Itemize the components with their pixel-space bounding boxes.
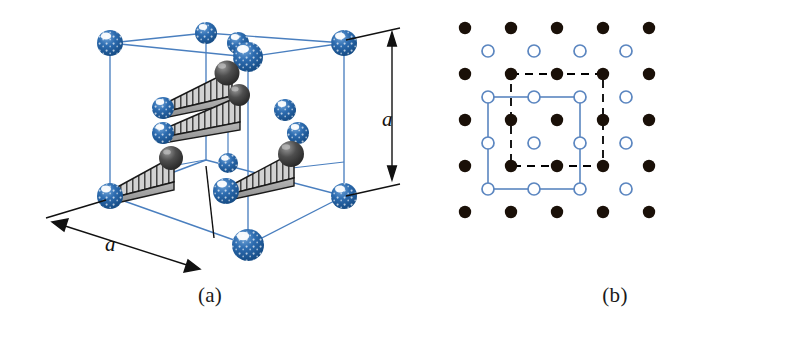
open-circle: [620, 45, 632, 57]
atom-corner-back-bottom-right: [331, 183, 357, 209]
filled-circle: [551, 114, 563, 126]
filled-circle: [505, 68, 517, 80]
filled-circle: [597, 22, 609, 34]
filled-circle: [459, 22, 471, 34]
filled-circle: [551, 68, 563, 80]
filled-circle: [505, 22, 517, 34]
atom-interior-center: [218, 153, 238, 173]
open-circle: [574, 137, 586, 149]
open-circle: [574, 183, 586, 195]
dim-leader-left: [46, 200, 106, 218]
dimension-label-horizontal: a: [105, 232, 116, 257]
panel-b-caption: (b): [420, 283, 810, 308]
atom-bottom-front-mid: [213, 178, 239, 204]
open-circle: [620, 91, 632, 103]
open-circle: [620, 137, 632, 149]
open-circle: [528, 137, 540, 149]
atom-corner-front-top-left: [97, 30, 123, 56]
filled-circle: [643, 114, 655, 126]
dim-shaft-horizontal: [62, 225, 190, 266]
filled-circle: [505, 114, 517, 126]
open-circle: [574, 91, 586, 103]
atom-corner-front-bottom-left: [97, 183, 123, 209]
cube-edge-top-left-depth: [110, 33, 206, 43]
dim-arrowhead-right: [184, 260, 200, 272]
filled-circle: [459, 114, 471, 126]
open-circle: [528, 183, 540, 195]
dimension-label-vertical: a: [382, 107, 393, 132]
dim-arrowhead-down: [388, 166, 397, 180]
atom-corner-back-top-left: [195, 22, 217, 44]
filled-circle: [597, 160, 609, 172]
filled-circle: [551, 206, 563, 218]
cube-edge-bottom-right-depth: [248, 196, 344, 245]
filled-circle: [505, 160, 517, 172]
atom-interior-right-upper: [274, 99, 296, 121]
dim-arrowhead-left: [52, 219, 68, 231]
open-circle: [482, 183, 494, 195]
filled-circle: [597, 206, 609, 218]
atom-interior-right-lower: [287, 122, 309, 144]
filled-circle: [597, 114, 609, 126]
dim-leader-right: [206, 166, 214, 238]
panel-a-caption: (a): [0, 283, 420, 308]
filled-circle: [643, 22, 655, 34]
open-circle: [482, 91, 494, 103]
open-circle: [482, 45, 494, 57]
panel-a-unit-cell-3d: a a (a): [0, 0, 420, 337]
atom-dark-right-wedge: [278, 141, 304, 167]
filled-circle: [459, 206, 471, 218]
atom-dark-upper-a: [215, 61, 240, 86]
atom-corner-back-top-right: [331, 30, 357, 56]
filled-circle: [551, 160, 563, 172]
panel-b-lattice-2d: (b): [420, 0, 810, 337]
filled-circle: [505, 206, 517, 218]
dim-arrowhead-up: [388, 32, 397, 46]
filled-circle: [459, 68, 471, 80]
open-circle: [620, 183, 632, 195]
cube-edge-back-top: [206, 33, 344, 43]
atom-interior-left-lower: [152, 122, 174, 144]
blue-atoms-group: [97, 22, 357, 261]
figure-container: a a (a): [0, 0, 810, 337]
filled-circle: [551, 22, 563, 34]
open-circle: [528, 91, 540, 103]
filled-circle: [459, 160, 471, 172]
atom-dark-left-wedge: [159, 146, 183, 170]
atom-corner-front-bottom-center: [232, 229, 264, 261]
filled-circle: [643, 160, 655, 172]
open-circle: [482, 137, 494, 149]
open-circle: [574, 45, 586, 57]
open-circle: [528, 45, 540, 57]
filled-circle: [643, 206, 655, 218]
filled-circle: [643, 68, 655, 80]
atom-interior-left-upper: [152, 97, 174, 119]
atom-dark-upper-b: [228, 84, 250, 106]
filled-circle: [597, 68, 609, 80]
